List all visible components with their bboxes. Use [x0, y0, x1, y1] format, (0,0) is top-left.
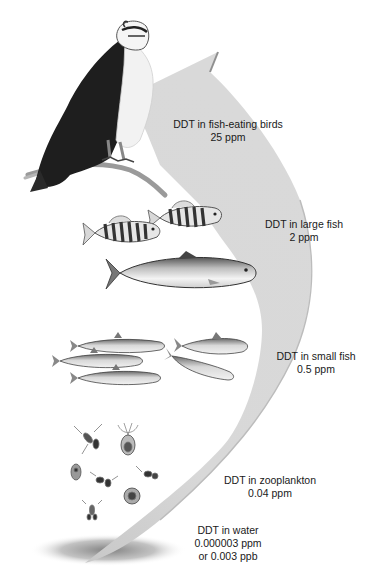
osprey-icon	[25, 21, 165, 195]
label-water: DDT in water 0.000003 ppm or 0.003 ppb	[180, 524, 276, 563]
label-title: DDT in large fish	[248, 218, 360, 231]
label-value: 2 ppm	[248, 231, 360, 244]
label-title: DDT in small fish	[266, 350, 366, 363]
biomagnification-diagram: DDT in fish-eating birds 25 ppm DDT in l…	[0, 0, 368, 584]
label-large-fish: DDT in large fish 2 ppm	[248, 218, 360, 244]
label-title: DDT in fish-eating birds	[158, 118, 298, 131]
zooplankton-icon	[71, 423, 158, 520]
label-value: 0.000003 ppm	[180, 537, 276, 550]
label-fish-eating-birds: DDT in fish-eating birds 25 ppm	[158, 118, 298, 144]
label-value: 0.04 ppm	[212, 487, 328, 500]
small-fish-icon	[52, 332, 248, 385]
label-title: DDT in water	[180, 524, 276, 537]
label-title: DDT in zooplankton	[212, 474, 328, 487]
label-zooplankton: DDT in zooplankton 0.04 ppm	[212, 474, 328, 500]
label-small-fish: DDT in small fish 0.5 ppm	[266, 350, 366, 376]
label-value: 25 ppm	[158, 131, 298, 144]
label-value: 0.5 ppm	[266, 363, 366, 376]
label-value-alt: or 0.003 ppb	[180, 550, 276, 563]
